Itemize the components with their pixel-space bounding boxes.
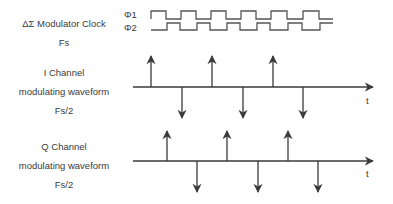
i-down-impulses — [182, 87, 303, 118]
phi2-waveform — [151, 23, 333, 30]
i-up-impulses — [151, 56, 273, 87]
q-up-impulses — [167, 131, 288, 161]
timing-diagram — [0, 0, 393, 204]
phi1-waveform — [151, 11, 333, 19]
q-down-impulses — [197, 161, 318, 192]
